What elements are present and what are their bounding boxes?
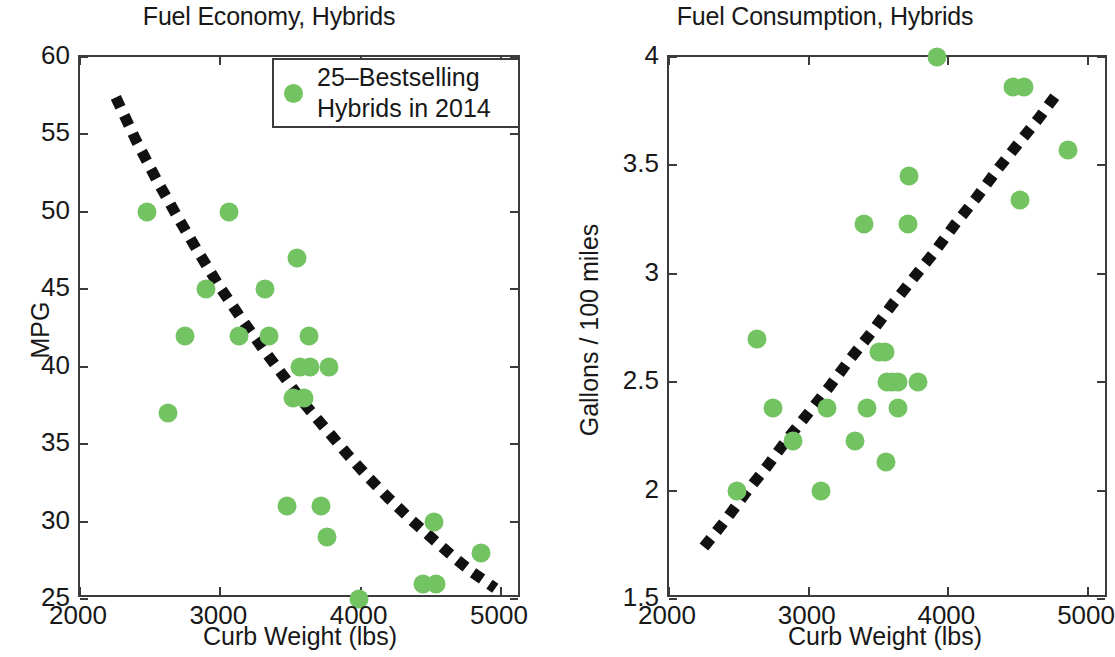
y-tick-label-55: 55	[0, 117, 70, 148]
y-tick-label-60: 60	[0, 40, 70, 71]
y-tick-right-2	[1097, 490, 1105, 492]
data-point	[197, 280, 216, 299]
data-point	[928, 48, 947, 67]
data-point	[287, 249, 306, 268]
y-tick-right-40	[510, 366, 518, 368]
data-point	[175, 326, 194, 345]
x-tick-label-4000: 4000	[917, 600, 975, 631]
y-tick-label-35: 35	[0, 427, 70, 458]
data-point	[294, 388, 313, 407]
data-point	[219, 202, 238, 221]
y-tick-right-3	[1097, 273, 1105, 275]
data-point	[317, 528, 336, 547]
y-tick-4	[669, 56, 677, 58]
x-tick-label-5000: 5000	[1057, 600, 1115, 631]
y-tick-label-2: 2	[575, 473, 659, 504]
data-point	[299, 326, 318, 345]
data-point	[259, 326, 278, 345]
y-tick-right-2.5	[1097, 381, 1105, 383]
data-point	[748, 329, 767, 348]
chart-title-fuel-consumption: Fuel Consumption, Hybrids	[565, 2, 1085, 31]
y-tick-35	[80, 443, 88, 445]
data-point	[312, 497, 331, 516]
legend-marker-icon	[284, 84, 303, 103]
y-tick-right-50	[510, 211, 518, 213]
data-point	[784, 431, 803, 450]
x-tick-label-5000: 5000	[470, 600, 528, 631]
y-tick-label-1.5: 1.5	[575, 582, 659, 613]
data-point	[301, 357, 320, 376]
x-tick-3000	[808, 587, 810, 595]
data-point	[846, 431, 865, 450]
data-point	[229, 326, 248, 345]
y-tick-right-45	[510, 288, 518, 290]
legend-label-line1: 25–Bestselling	[317, 63, 480, 91]
y-tick-right-4	[1097, 56, 1105, 58]
y-tick-label-40: 40	[0, 349, 70, 380]
data-point	[898, 214, 917, 233]
y-tick-label-50: 50	[0, 194, 70, 225]
x-tick-top-3000	[219, 57, 221, 65]
y-tick-3	[669, 273, 677, 275]
data-point	[908, 373, 927, 392]
y-tick-60	[80, 56, 88, 58]
y-tick-2	[669, 490, 677, 492]
x-tick-top-3000	[808, 57, 810, 65]
legend-label: 25–BestsellingHybrids in 2014	[317, 62, 491, 124]
y-tick-55	[80, 133, 88, 135]
data-point	[854, 214, 873, 233]
chart-title-fuel-economy: Fuel Economy, Hybrids	[14, 2, 524, 31]
panel-fuel-consumption: Fuel Consumption, Hybrids Curb Weight (l…	[555, 0, 1110, 657]
y-tick-label-30: 30	[0, 504, 70, 535]
data-point	[889, 399, 908, 418]
y-tick-30	[80, 521, 88, 523]
data-point	[424, 512, 443, 531]
data-point	[889, 373, 908, 392]
x-tick-label-3000: 3000	[189, 600, 247, 631]
x-tick-2000	[79, 587, 81, 595]
data-point	[471, 543, 490, 562]
data-point	[811, 481, 830, 500]
y-tick-right-55	[510, 133, 518, 135]
panel-fuel-economy: Fuel Economy, Hybrids 25–BestsellingHybr…	[0, 0, 555, 657]
x-tick-label-4000: 4000	[330, 600, 388, 631]
data-point	[1011, 191, 1030, 210]
y-tick-45	[80, 288, 88, 290]
y-tick-40	[80, 366, 88, 368]
legend-box: 25–BestsellingHybrids in 2014	[272, 58, 520, 128]
y-tick-2.5	[669, 381, 677, 383]
x-tick-top-2000	[668, 57, 670, 65]
data-point	[900, 167, 919, 186]
data-point	[137, 202, 156, 221]
fit-line	[669, 57, 1109, 599]
x-tick-4000	[947, 587, 949, 595]
y-tick-label-2.5: 2.5	[575, 365, 659, 396]
legend-label-line2: Hybrids in 2014	[317, 94, 491, 122]
plot-area-fuel-economy	[78, 55, 520, 597]
x-tick-label-3000: 3000	[778, 600, 836, 631]
data-point	[764, 399, 783, 418]
x-tick-top-2000	[79, 57, 81, 65]
x-tick-5000	[1087, 587, 1089, 595]
x-tick-top-5000	[1087, 57, 1089, 65]
y-tick-right-30	[510, 521, 518, 523]
x-tick-3000	[219, 587, 221, 595]
y-tick-label-3: 3	[575, 256, 659, 287]
x-tick-top-4000	[947, 57, 949, 65]
data-point	[277, 497, 296, 516]
data-point	[427, 574, 446, 593]
y-tick-right-35	[510, 443, 518, 445]
data-point	[877, 453, 896, 472]
y-tick-label-45: 45	[0, 272, 70, 303]
y-tick-3.5	[669, 164, 677, 166]
data-point	[256, 280, 275, 299]
y-tick-right-3.5	[1097, 164, 1105, 166]
plot-area-fuel-consumption	[667, 55, 1107, 597]
data-point	[1058, 141, 1077, 160]
data-point	[858, 399, 877, 418]
data-point	[159, 404, 178, 423]
y-tick-50	[80, 211, 88, 213]
data-point	[728, 481, 747, 500]
fit-line	[80, 57, 522, 599]
